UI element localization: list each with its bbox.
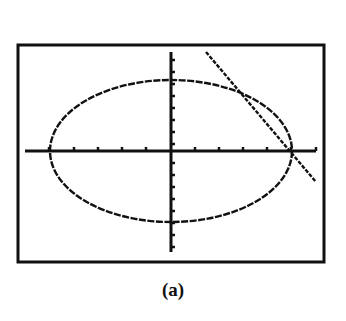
figure-caption: (a) [0,279,346,301]
line-curve [206,52,316,182]
calculator-graph [0,0,346,321]
